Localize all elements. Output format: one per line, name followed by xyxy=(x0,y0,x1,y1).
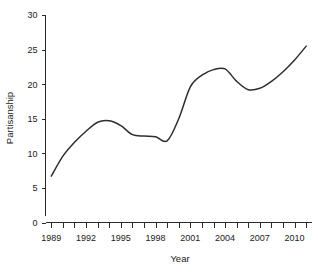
x-tick-label: 2007 xyxy=(250,233,270,243)
y-tick-label: 25 xyxy=(27,45,37,55)
y-tick-label: 5 xyxy=(32,183,37,193)
x-tick-label: 1989 xyxy=(41,233,61,243)
x-tick-label: 2001 xyxy=(180,233,200,243)
x-tick-label: 2010 xyxy=(285,233,305,243)
y-axis: 051015202530 xyxy=(27,10,45,228)
partisanship-line-chart: 051015202530 198919921995199820012004200… xyxy=(0,0,318,274)
x-axis-title: Year xyxy=(170,253,189,264)
partisanship-series-line xyxy=(51,46,306,176)
x-axis-ticks xyxy=(52,223,307,228)
y-axis-tick-labels: 051015202530 xyxy=(27,10,37,228)
x-tick-label: 1998 xyxy=(146,233,166,243)
y-tick-label: 0 xyxy=(32,218,37,228)
y-tick-label: 30 xyxy=(27,10,37,20)
x-tick-label: 2004 xyxy=(215,233,235,243)
y-axis-title: Partisanship xyxy=(4,92,15,144)
x-tick-label: 1992 xyxy=(76,233,96,243)
x-axis-tick-labels: 19891992199519982001200420072010 xyxy=(41,233,304,243)
chart-canvas: 051015202530 198919921995199820012004200… xyxy=(0,0,318,274)
x-tick-label: 1995 xyxy=(111,233,131,243)
y-axis-ticks xyxy=(42,16,46,224)
y-tick-label: 20 xyxy=(27,80,37,90)
x-axis: 19891992199519982001200420072010 xyxy=(41,223,312,243)
y-tick-label: 10 xyxy=(27,149,37,159)
y-tick-label: 15 xyxy=(27,114,37,124)
